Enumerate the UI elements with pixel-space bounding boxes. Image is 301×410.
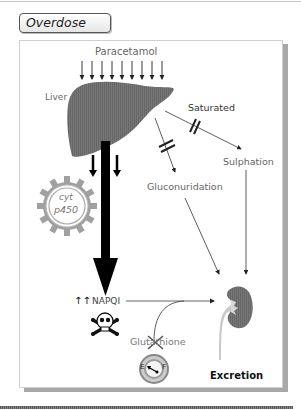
napqi-label: NAPQI [92,296,120,306]
liver-label: Liver [45,92,67,102]
liver-icon [67,82,174,157]
bottom-divider [0,406,293,409]
cyt-label: cyt [59,192,73,202]
saturated-block-icon [190,119,200,134]
skull-crossbones-icon [91,313,119,336]
arrow-to-sulphation [165,111,241,149]
gluconuridation-label: Gluconuridation [147,181,223,192]
excretion-label: Excretion [210,370,263,381]
glutathione-conjugation-curve [154,301,184,341]
enzyme-f-label: F [162,363,166,371]
sulphation-label: Sulphation [223,156,274,167]
saturated-label: Saturated [188,102,235,113]
kidney-icon [219,286,253,360]
glutathione-label: Glutathione [130,336,186,347]
cyt-p450-major-pathway-arrow [93,141,118,296]
p450-label: p450 [54,204,78,215]
arrow-gluconuridation-to-kidney [185,198,219,274]
enzyme-e-label: E [140,363,144,371]
paracetamol-input-arrows [82,61,162,79]
metabolism-diagram [0,0,301,410]
napqi-increase-arrows: ↑↑ [74,295,91,306]
paracetamol-label: Paracetamol [95,46,157,57]
